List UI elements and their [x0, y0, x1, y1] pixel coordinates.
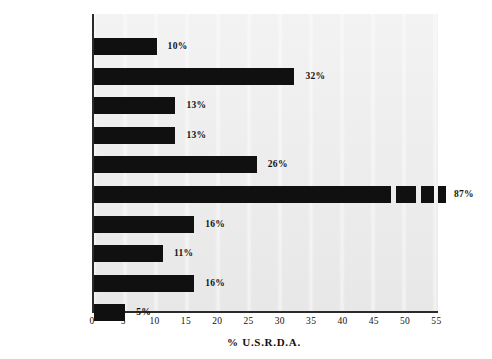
bar-value-label: 16% — [205, 275, 225, 292]
bar — [94, 38, 157, 55]
bar — [94, 216, 194, 233]
bar-value-label: 16% — [205, 216, 225, 233]
bar-value-label: 32% — [305, 68, 325, 85]
x-tick-55: 55 — [416, 316, 456, 326]
bar — [94, 245, 163, 262]
bar-segment — [396, 186, 416, 203]
bar-value-label: 13% — [186, 127, 206, 144]
bar — [94, 156, 257, 173]
bar-segment — [94, 186, 391, 203]
x-axis-tick-labels: 0510152025303540455055 — [0, 316, 492, 332]
bar — [94, 68, 294, 85]
bar-segment — [421, 186, 434, 203]
bar-value-label: 11% — [174, 245, 193, 262]
x-axis-title: % U.S.R.D.A. — [0, 336, 492, 348]
bar — [94, 97, 175, 114]
bar — [94, 275, 194, 292]
bar-value-label: 26% — [268, 156, 288, 173]
nutrition-bar-chart: CALORIES10%PROTEIN32%IRON13%ZINC13%CALCI… — [0, 0, 492, 359]
bar — [94, 127, 175, 144]
bar-value-label: 10% — [168, 38, 188, 55]
bar-rows: CALORIES10%PROTEIN32%IRON13%ZINC13%CALCI… — [0, 0, 492, 359]
bar-value-label: 13% — [186, 97, 206, 114]
bar-segment — [438, 186, 446, 203]
bar-value-label: 87% — [454, 186, 474, 203]
